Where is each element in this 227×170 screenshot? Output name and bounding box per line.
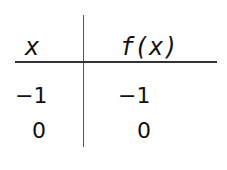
header-rule xyxy=(15,61,217,63)
cell-x-row2: 0 xyxy=(32,119,46,143)
cell-x-row1: −1 xyxy=(15,84,47,108)
column-divider xyxy=(83,15,84,147)
cell-fx-row2: 0 xyxy=(137,119,151,143)
header-x: x xyxy=(25,34,39,60)
cell-fx-row1: −1 xyxy=(118,84,150,108)
header-fx: f(x) xyxy=(120,34,178,60)
